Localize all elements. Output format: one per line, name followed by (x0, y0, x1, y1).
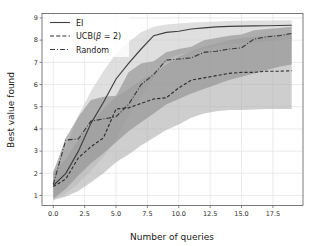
y-tick-label: 8 (34, 36, 38, 44)
legend-ucb-eq: = 2) (101, 32, 121, 41)
y-tick-label: 5 (34, 103, 38, 111)
y-tick-label: 6 (34, 81, 38, 89)
y-axis-title: Best value found (6, 72, 16, 148)
legend-label-random: Random (76, 46, 109, 55)
y-tick-label: 3 (34, 147, 38, 155)
y-tick-label: 1 (34, 192, 38, 200)
legend-ucb-prefix: UCB( (76, 32, 96, 41)
chart-figure: 123456789 0.02.55.07.510.012.515.017.5 N… (0, 0, 319, 246)
x-tick-label: 2.5 (79, 210, 89, 218)
x-tick-label: 17.5 (266, 210, 280, 218)
x-tick-label: 5.0 (111, 210, 121, 218)
chart-legend: EI UCB(β = 2) Random (45, 15, 129, 57)
x-axis-title: Number of queries (130, 232, 214, 242)
y-tick-label: 9 (34, 14, 38, 22)
y-tick-label: 2 (34, 170, 38, 178)
y-tick-label: 7 (34, 59, 38, 67)
x-tick-label: 15.0 (234, 210, 248, 218)
y-tick-label: 4 (34, 125, 38, 133)
legend-label-ucb: UCB(β = 2) (76, 32, 121, 41)
x-tick-label: 10.0 (172, 210, 186, 218)
chart-canvas: 123456789 0.02.55.07.510.012.515.017.5 N… (0, 0, 319, 246)
x-tick-label: 7.5 (142, 210, 152, 218)
legend-label-ei: EI (76, 19, 83, 28)
x-tick-label: 0.0 (48, 210, 58, 218)
x-tick-label: 12.5 (203, 210, 217, 218)
